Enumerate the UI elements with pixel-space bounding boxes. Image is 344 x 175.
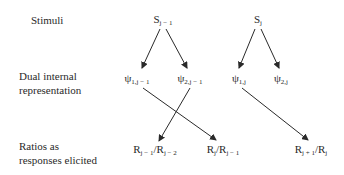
node-psi1-prev: ψ1,j − 1 bbox=[124, 72, 149, 89]
row-label-stimuli: Stimuli bbox=[31, 14, 63, 27]
node-ratio-r1: Rj − 1/Rj − 2 bbox=[133, 143, 177, 160]
node-s-cur: Sj bbox=[254, 13, 262, 30]
row-label-ratios-2: responses elicited bbox=[19, 154, 97, 167]
node-ratio-r3: Rj + 1/Rj bbox=[295, 143, 328, 160]
node-psi1-cur: ψ1,j bbox=[232, 72, 246, 89]
row-label-dual-2: representation bbox=[19, 84, 81, 97]
arrow-s-cur-to-psi1-cur bbox=[239, 29, 255, 68]
arrow-psi1-cur-to-r3 bbox=[242, 88, 308, 140]
node-s-prev: Sj − 1 bbox=[153, 13, 172, 30]
row-label-dual-1: Dual internal bbox=[19, 70, 77, 83]
arrow-s-prev-to-psi2-prev bbox=[166, 29, 187, 68]
arrow-psi2-prev-to-r1 bbox=[159, 88, 190, 141]
row-label-ratios-1: Ratios as bbox=[19, 140, 59, 153]
arrow-s-cur-to-psi2-cur bbox=[261, 29, 279, 68]
node-psi2-cur: ψ2,j bbox=[274, 72, 288, 89]
node-psi2-prev: ψ2,j − 1 bbox=[177, 72, 202, 89]
arrow-s-prev-to-psi1-prev bbox=[142, 29, 160, 68]
arrow-psi1-prev-to-r2 bbox=[143, 88, 216, 140]
node-ratio-r2: Rj/Rj − 1 bbox=[207, 143, 240, 160]
